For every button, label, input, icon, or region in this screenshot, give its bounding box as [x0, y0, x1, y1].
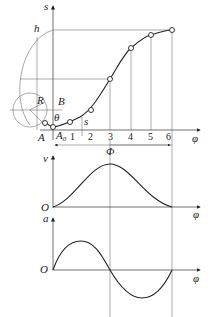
A0-label: A0: [55, 129, 67, 143]
phi-axis-label-top: φ: [192, 132, 198, 144]
Phi-label: Φ: [106, 145, 115, 157]
construction-arc: [20, 30, 53, 125]
R-label: R: [36, 94, 44, 106]
point-4: [129, 46, 134, 51]
theta-label: θ: [54, 111, 60, 123]
displacement-graph: s h R B θ A A0 s 1 2 3 4 5 6 φ Φ: [10, 0, 200, 317]
B-label: B: [58, 95, 65, 107]
tick-1: 1: [70, 131, 75, 142]
point-6: [170, 28, 175, 33]
tick-2: 2: [88, 131, 93, 142]
tick-5: 5: [148, 131, 153, 142]
point-A0: [51, 125, 56, 130]
tick-6: 6: [166, 131, 171, 142]
point-2: [89, 108, 94, 113]
point-3: [108, 77, 113, 82]
origin-a-label: O: [40, 263, 48, 275]
A-label: A: [37, 131, 45, 143]
point-A: [43, 121, 48, 126]
a-axis-label: a: [43, 212, 49, 224]
acceleration-graph: a O φ: [40, 212, 200, 298]
velocity-curve: [53, 164, 172, 207]
phi-axis-label-v: φ: [193, 208, 199, 220]
point-1: [68, 120, 73, 125]
velocity-graph: v O φ: [41, 152, 200, 220]
tick-4: 4: [128, 131, 133, 142]
s-axis-label: s: [44, 0, 48, 12]
s-dim-label: s: [84, 115, 88, 127]
tick-3: 3: [108, 131, 113, 142]
phi-axis-label-a: φ: [193, 272, 199, 284]
v-axis-label: v: [43, 152, 48, 164]
acceleration-curve: [53, 241, 172, 298]
h-label: h: [34, 22, 40, 34]
cam-motion-diagram: s h R B θ A A0 s 1 2 3 4 5 6 φ Φ v O φ a…: [0, 0, 216, 317]
point-5: [149, 33, 154, 38]
